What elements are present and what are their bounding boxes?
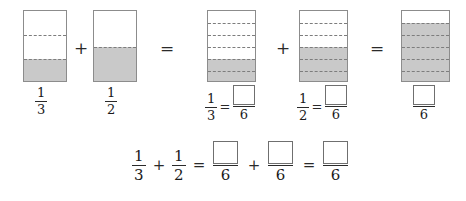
bar-cell-shaded xyxy=(300,71,347,82)
bar-cell-shaded xyxy=(402,23,449,35)
bar-cell-shaded xyxy=(208,59,255,71)
bar-cell-shaded xyxy=(402,59,449,71)
blank-square[interactable] xyxy=(233,85,255,105)
bar-model-one-third xyxy=(23,10,67,82)
fraction-denominator: 2 xyxy=(297,109,309,123)
equation-blank-term-1: 6 xyxy=(213,141,238,183)
equation-term-one-third: 1 3 xyxy=(132,148,146,183)
fraction-denominator: 3 xyxy=(205,109,217,123)
operator-equals: = xyxy=(160,40,174,57)
bar-model-five-sixths xyxy=(401,10,450,82)
bar-cell xyxy=(300,11,347,23)
bar-cell-shaded xyxy=(300,59,347,71)
fraction-denominator: 2 xyxy=(105,103,117,117)
blank-square[interactable] xyxy=(323,141,348,164)
equation-blank-term-3: 6 xyxy=(323,141,348,183)
bar-cell xyxy=(300,35,347,47)
fraction-denominator: 3 xyxy=(35,103,47,117)
fraction-denominator: 6 xyxy=(330,108,342,122)
fraction-denominator: 6 xyxy=(418,108,430,122)
operator-equals: = xyxy=(192,158,206,173)
operator-equals: = xyxy=(219,100,231,113)
fraction-numerator: 1 xyxy=(297,92,309,106)
operator-plus: + xyxy=(74,40,86,57)
blank-square[interactable] xyxy=(213,141,238,164)
fraction-numerator: 1 xyxy=(105,86,117,100)
operator-equals: = xyxy=(370,40,384,57)
operator-plus: + xyxy=(247,158,261,173)
bar-cell-shaded xyxy=(402,47,449,59)
bar-cell xyxy=(208,23,255,35)
bar-cell-shaded xyxy=(402,71,449,82)
answer-blank-box[interactable] xyxy=(323,141,348,164)
bar-cell-shaded xyxy=(208,71,255,82)
bar-cell xyxy=(300,23,347,35)
answer-blank-box[interactable] xyxy=(233,85,255,105)
bar-model-three-sixths xyxy=(299,10,348,82)
blank-square[interactable] xyxy=(325,85,347,105)
bar-cell-shaded xyxy=(402,35,449,47)
operator-equals: = xyxy=(311,100,323,113)
bar-model-two-sixths xyxy=(207,10,256,82)
bar-cell-shaded xyxy=(24,59,66,82)
answer-fraction-five-sixths: 6 xyxy=(413,85,435,122)
fraction-denominator: 2 xyxy=(172,167,186,183)
worksheet-canvas: 1 3 + 1 2 = 1 3 = 6 + xyxy=(0,0,466,201)
label-one-third: 1 3 xyxy=(35,86,47,117)
equation-one-half-left: 1 2 xyxy=(297,92,309,123)
bar-cell xyxy=(402,11,449,23)
fraction-numerator: 1 xyxy=(35,86,47,100)
fraction-denominator: 6 xyxy=(274,167,288,183)
bar-cell-shaded xyxy=(94,47,136,82)
answer-blank-box[interactable] xyxy=(213,141,238,164)
bar-cell xyxy=(208,35,255,47)
equation-term-one-half: 1 2 xyxy=(172,148,186,183)
fraction-denominator: 3 xyxy=(132,167,146,183)
fraction-numerator: 1 xyxy=(172,148,186,164)
fraction-denominator: 6 xyxy=(329,167,343,183)
bar-model-one-half xyxy=(93,10,137,82)
fraction-numerator: 1 xyxy=(205,92,217,106)
answer-blank-box[interactable] xyxy=(268,141,293,164)
fraction-numerator: 1 xyxy=(132,148,146,164)
bar-cell xyxy=(24,11,66,35)
answer-fraction-two-sixths: 6 xyxy=(233,85,255,122)
bar-cell xyxy=(208,11,255,23)
blank-square[interactable] xyxy=(268,141,293,164)
label-one-half: 1 2 xyxy=(105,86,117,117)
operator-plus: + xyxy=(152,158,166,173)
fraction-denominator: 6 xyxy=(238,108,250,122)
operator-plus: + xyxy=(276,40,288,57)
equation-one-third-left: 1 3 xyxy=(205,92,217,123)
bar-cell-shaded xyxy=(300,47,347,59)
answer-blank-box[interactable] xyxy=(325,85,347,105)
bar-cell xyxy=(94,11,136,47)
fraction-denominator: 6 xyxy=(219,167,233,183)
blank-square[interactable] xyxy=(413,85,435,105)
answer-fraction-three-sixths: 6 xyxy=(325,85,347,122)
answer-blank-box[interactable] xyxy=(413,85,435,105)
equation-blank-term-2: 6 xyxy=(268,141,293,183)
bar-cell xyxy=(24,35,66,59)
operator-equals: = xyxy=(302,158,316,173)
bar-cell xyxy=(208,47,255,59)
